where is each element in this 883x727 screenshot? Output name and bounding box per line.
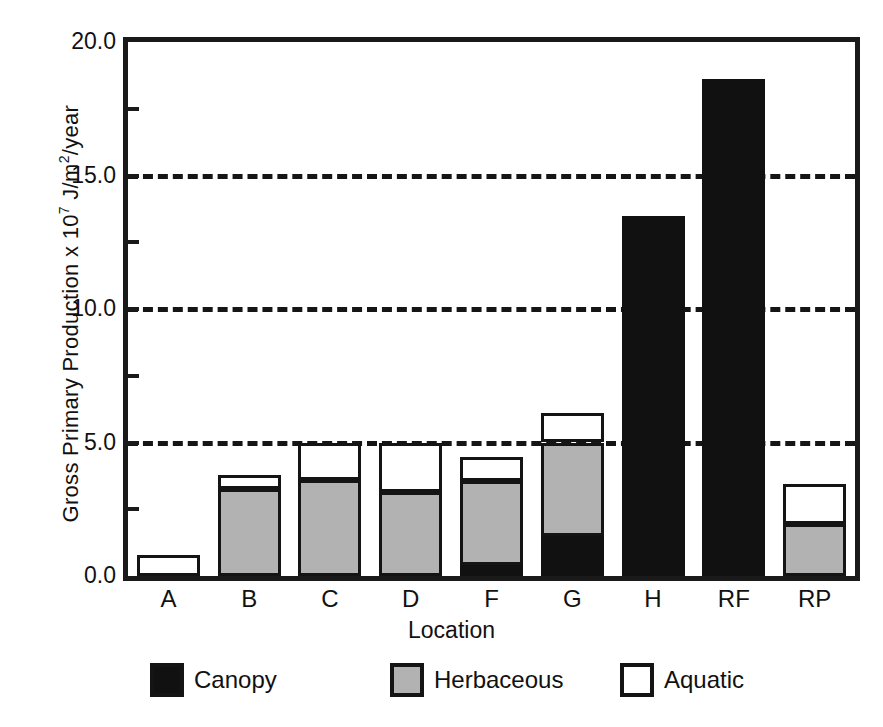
bar-D bbox=[379, 42, 442, 576]
bar-B bbox=[218, 42, 281, 576]
legend-label-canopy: Canopy bbox=[194, 666, 277, 694]
x-tick-label-RP: RP bbox=[774, 586, 855, 612]
plot-area bbox=[123, 37, 860, 581]
legend-label-herbaceous: Herbaceous bbox=[434, 666, 563, 694]
gross-primary-production-chart: Gross Primary Production x 107 J/m2/year… bbox=[0, 0, 883, 727]
bar-segment-canopy-G bbox=[541, 536, 604, 576]
legend-item-aquatic: Aquatic bbox=[620, 657, 744, 703]
bar-segment-herbaceous-G bbox=[541, 443, 604, 536]
bar-G bbox=[541, 42, 604, 576]
legend-item-herbaceous: Herbaceous bbox=[390, 657, 563, 703]
bar-A bbox=[137, 42, 200, 576]
bar-segment-canopy-RF bbox=[702, 79, 765, 576]
bar-segment-aquatic-D bbox=[379, 443, 442, 492]
x-tick-label-G: G bbox=[532, 586, 613, 612]
bar-F bbox=[460, 42, 523, 576]
x-axis-title-text: Location bbox=[408, 617, 495, 643]
bar-segment-herbaceous-F bbox=[460, 481, 523, 565]
x-tick-label-A: A bbox=[128, 586, 209, 612]
x-tick-label-F: F bbox=[451, 586, 532, 612]
bar-segment-aquatic-C bbox=[298, 443, 361, 480]
x-tick-label-D: D bbox=[370, 586, 451, 612]
black-swatch bbox=[150, 663, 184, 697]
bar-C bbox=[298, 42, 361, 576]
bar-segment-aquatic-A bbox=[137, 555, 200, 576]
chart-legend: CanopyHerbaceousAquatic bbox=[150, 657, 750, 703]
bar-segment-canopy-F bbox=[460, 565, 523, 576]
x-tick-label-RF: RF bbox=[693, 586, 774, 612]
y-tick-label-10-0: 10.0 bbox=[48, 297, 116, 320]
y-tick-label-20-0: 20.0 bbox=[48, 30, 116, 53]
bar-H bbox=[622, 42, 685, 576]
bar-segment-canopy-H bbox=[622, 216, 685, 576]
white-swatch bbox=[620, 663, 654, 697]
legend-item-canopy: Canopy bbox=[150, 657, 277, 703]
y-tick-label-5-0: 5.0 bbox=[48, 431, 116, 454]
bar-segment-aquatic-B bbox=[218, 475, 281, 490]
bar-RP bbox=[783, 42, 846, 576]
bar-segment-herbaceous-D bbox=[379, 492, 442, 576]
bar-segment-aquatic-G bbox=[541, 413, 604, 442]
bar-RF bbox=[702, 42, 765, 576]
x-tick-label-B: B bbox=[209, 586, 290, 612]
y-tick-label-15-0: 15.0 bbox=[48, 164, 116, 187]
x-axis-tick-labels: ABCDFGHRFRP bbox=[123, 586, 860, 620]
y-tick-label-0-0: 0.0 bbox=[48, 564, 116, 587]
bar-segment-herbaceous-RP bbox=[783, 524, 846, 576]
bar-segment-aquatic-RP bbox=[783, 484, 846, 524]
bar-segment-aquatic-F bbox=[460, 457, 523, 481]
bar-segment-herbaceous-C bbox=[298, 480, 361, 576]
x-axis-title: Location bbox=[0, 617, 883, 644]
legend-label-aquatic: Aquatic bbox=[664, 666, 744, 694]
x-tick-label-H: H bbox=[613, 586, 694, 612]
x-tick-label-C: C bbox=[290, 586, 371, 612]
bar-segment-herbaceous-B bbox=[218, 489, 281, 576]
gray-swatch bbox=[390, 663, 424, 697]
plot-inner bbox=[128, 42, 855, 576]
